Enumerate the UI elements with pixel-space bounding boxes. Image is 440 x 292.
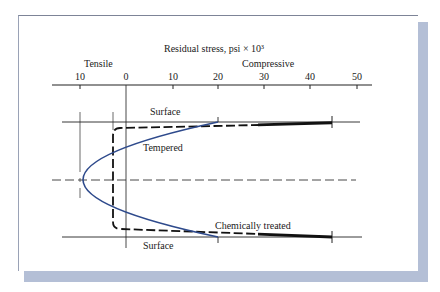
axis-tick-labels: 10 0 10 20 30 40 50 (75, 71, 362, 82)
tempered-curve (83, 122, 218, 237)
tick-label: 30 (259, 71, 269, 82)
tick-label: 40 (305, 71, 315, 82)
chemically-treated-label: Chemically treated (215, 220, 291, 231)
diagram-title: Residual stress, psi × 10³ (164, 43, 264, 54)
tick-label: 10 (168, 71, 178, 82)
tick-label: 50 (352, 71, 362, 82)
surface-top-label: Surface (150, 106, 181, 117)
tick-label: 20 (213, 71, 223, 82)
tick-label: 10 (75, 71, 85, 82)
residual-stress-diagram: Residual stress, psi × 10³ Tensile Compr… (0, 0, 440, 292)
tempered-label: Tempered (143, 142, 183, 153)
surface-bottom-label: Surface (143, 240, 174, 251)
tensile-label: Tensile (84, 58, 113, 69)
stress-axis: 10 0 10 20 30 40 50 (52, 71, 372, 89)
tick-label: 0 (124, 71, 129, 82)
compressive-label: Compressive (242, 58, 295, 69)
